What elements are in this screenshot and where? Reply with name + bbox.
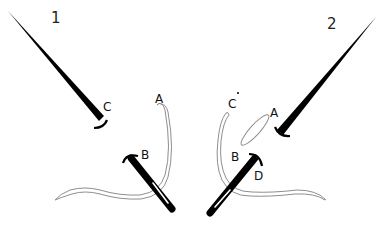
point-b-label: B	[141, 149, 149, 161]
needle-eye-icon	[123, 155, 172, 209]
stitch-icon	[238, 112, 272, 148]
point-a-label: A	[155, 93, 163, 105]
step-1-label: 1	[51, 11, 61, 26]
point-c-label: C	[228, 98, 236, 110]
point-d-label: D	[254, 170, 263, 182]
point-b-label: B	[231, 151, 239, 163]
dot-marker	[237, 92, 239, 94]
diagram-canvas	[0, 0, 386, 229]
needle-icon	[275, 17, 376, 136]
panel-1	[8, 11, 172, 209]
point-a-label: A	[270, 107, 278, 119]
step-2-label: 2	[327, 17, 337, 32]
panel-2	[210, 17, 376, 213]
needle-icon	[8, 11, 107, 128]
point-c-label: C	[103, 101, 111, 113]
stitch-diagram: 1 C A B 2 C A B D	[0, 0, 386, 229]
